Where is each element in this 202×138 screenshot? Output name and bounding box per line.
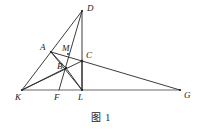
segment-K-B <box>22 68 66 90</box>
vertex-label-B: B <box>57 62 63 71</box>
vertex-label-A: A <box>40 43 46 52</box>
vertex-dot-M <box>67 53 69 55</box>
vertex-label-M: M <box>62 44 70 53</box>
vertex-dot-D <box>81 10 83 12</box>
vertex-dot-C <box>81 60 83 62</box>
segment-B-L <box>66 68 82 90</box>
vertex-label-L: L <box>78 93 83 102</box>
geometry-figure: D A M C B K F L G 图 1 <box>0 0 202 138</box>
vertex-dot-A <box>50 51 52 53</box>
vertex-dot-L <box>81 89 83 91</box>
vertex-dot-G <box>179 89 181 91</box>
figure-caption: 图 1 <box>0 112 202 124</box>
segment-C-G <box>82 61 180 90</box>
vertex-label-D: D <box>87 4 94 13</box>
vertex-dot-K <box>21 89 23 91</box>
vertex-label-C: C <box>86 51 92 60</box>
vertex-label-F: F <box>54 93 60 102</box>
vertex-dot-B <box>65 67 67 69</box>
vertex-label-K: K <box>15 93 21 102</box>
vertex-label-G: G <box>184 91 191 100</box>
